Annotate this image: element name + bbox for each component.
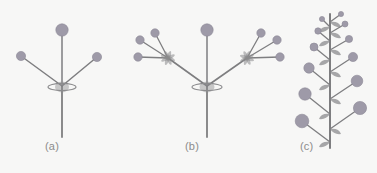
flower-head: [257, 29, 265, 37]
flower-head: [299, 88, 311, 100]
flower-head: [295, 114, 309, 128]
flower-head: [276, 53, 284, 61]
flower-head: [16, 51, 25, 60]
subtending-bract: [319, 142, 330, 147]
flower-head: [310, 43, 318, 51]
flower-head: [315, 28, 321, 34]
flower-head: [338, 11, 343, 16]
involucre-bract-lobe: [55, 82, 69, 93]
pedicel: [21, 56, 62, 86]
flower-head: [351, 75, 363, 87]
subtending-bract: [330, 129, 341, 134]
subtending-bract: [330, 72, 341, 77]
subtending-bract: [319, 41, 330, 46]
flower-head: [92, 52, 101, 61]
flower-head: [273, 36, 281, 44]
primary-ray: [168, 58, 207, 86]
subtending-bract: [330, 99, 341, 104]
flower-head: [342, 21, 348, 27]
subtending-bract: [319, 60, 330, 65]
subtending-bract: [330, 33, 341, 38]
flower-head: [56, 24, 68, 36]
subtending-bract: [330, 22, 341, 27]
inflorescence-diagram: (a) (b) (c): [0, 0, 377, 173]
flower-head: [201, 24, 213, 36]
primary-ray: [207, 58, 247, 86]
caption-c: (c): [300, 140, 313, 152]
flower-head: [319, 16, 324, 21]
pedicel: [62, 57, 97, 86]
panel-compound-umbel: [134, 24, 284, 137]
flower-head: [345, 35, 352, 42]
caption-a: (a): [45, 140, 59, 152]
panel-simple-umbel: [16, 24, 101, 137]
involucre-bract-lobe: [200, 82, 215, 93]
flower-head: [151, 29, 159, 37]
flower-head: [304, 63, 314, 73]
subtending-bract: [319, 114, 330, 119]
caption-b: (b): [185, 140, 199, 152]
panel-raceme: [295, 11, 366, 148]
subtending-bract: [330, 50, 341, 55]
flower-head: [136, 36, 144, 44]
subtending-bract: [319, 85, 330, 90]
flower-head: [348, 52, 357, 61]
flower-head: [353, 101, 366, 114]
flower-head: [134, 53, 142, 61]
